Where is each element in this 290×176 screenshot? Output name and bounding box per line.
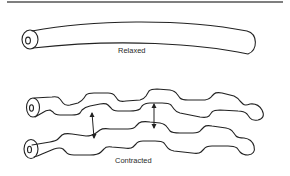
relaxed-label: Relaxed: [118, 46, 146, 55]
diagram-figure: Relaxed Contracted: [0, 0, 290, 176]
contracted-label: Contracted: [115, 156, 152, 165]
distance-arrow-right: [152, 103, 157, 129]
contracted-fiber-upper: [27, 89, 264, 120]
contracted-fiber-lower: [24, 122, 254, 159]
